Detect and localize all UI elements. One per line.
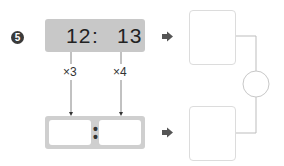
multiplier-left: ×3	[63, 65, 77, 79]
ratio-left-value: 12	[66, 19, 91, 52]
compare-circle[interactable]	[243, 71, 269, 97]
answer-right-blank[interactable]	[99, 120, 141, 145]
answer-separator: ••	[93, 125, 97, 141]
result-box-bottom[interactable]	[189, 106, 236, 161]
answer-ratio-box: ••	[45, 116, 145, 149]
arrow-right-icon-bottom	[162, 128, 173, 138]
arrow-right-icon-top	[162, 32, 173, 42]
ratio-separator: :	[92, 19, 99, 52]
result-box-top[interactable]	[189, 10, 236, 65]
ratio-right-value: 13	[117, 19, 142, 52]
answer-left-blank[interactable]	[49, 120, 91, 145]
problem-number-badge: 5	[11, 31, 24, 44]
given-ratio-box: 12 : 13	[45, 19, 145, 52]
multiplier-right: ×4	[113, 65, 127, 79]
